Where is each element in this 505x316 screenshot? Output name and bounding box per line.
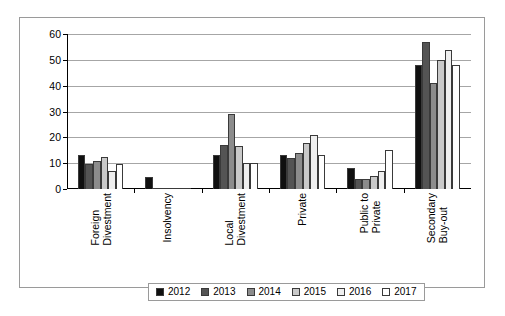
category-labels: ForeignDivestmentInsolvencyLocalDivestme…: [67, 189, 471, 269]
chart-legend: 201220132014201520162017: [148, 283, 425, 301]
bar: [287, 158, 295, 189]
category-label-line2: Divestment: [101, 193, 113, 246]
bar: [85, 164, 93, 189]
bar-group: [67, 34, 134, 189]
bar: [280, 155, 288, 189]
legend-item[interactable]: 2013: [201, 287, 235, 297]
category-label-slot: LocalDivestment: [202, 189, 269, 269]
legend-label: 2016: [349, 287, 371, 297]
category-label-line1: Private: [296, 193, 308, 226]
y-tick-label: 20: [49, 132, 61, 143]
legend-item[interactable]: 2012: [156, 287, 190, 297]
bar: [213, 155, 221, 189]
category-label: Insolvency: [162, 193, 174, 243]
category-label: Public toPrivate: [358, 193, 381, 233]
category-label-slot: Public toPrivate: [336, 189, 403, 269]
bar: [220, 145, 228, 189]
bar: [295, 153, 303, 189]
bar: [355, 179, 363, 189]
bar: [445, 50, 453, 190]
bar: [243, 163, 251, 189]
bar: [116, 164, 124, 189]
bar: [370, 176, 378, 189]
y-tick-label: 60: [49, 29, 61, 40]
bar: [250, 163, 258, 189]
category-label-line1: Local: [223, 220, 235, 245]
legend-label: 2014: [259, 287, 281, 297]
legend-item[interactable]: 2016: [337, 287, 371, 297]
bar: [415, 65, 423, 189]
bar: [422, 42, 430, 189]
category-label-line2: Private: [370, 193, 382, 233]
bar: [228, 114, 236, 189]
legend-label: 2012: [168, 287, 190, 297]
legend-label: 2013: [213, 287, 235, 297]
bar: [101, 157, 109, 189]
bar-group: [134, 34, 201, 189]
bar: [362, 179, 370, 189]
bar-group: [202, 34, 269, 189]
bar: [430, 83, 438, 189]
chart-screenshot: 0102030405060 ForeignDivestmentInsolvenc…: [0, 0, 505, 316]
y-tick-label: 40: [49, 80, 61, 91]
category-label-slot: Private: [269, 189, 336, 269]
category-label-slot: Insolvency: [134, 189, 201, 269]
category-label: ForeignDivestment: [89, 193, 112, 246]
bar-groups: [67, 34, 471, 189]
category-label: SecondaryBuy-out: [426, 193, 449, 243]
category-label: LocalDivestment: [224, 193, 247, 246]
category-label-line1: Secondary: [425, 193, 437, 243]
bar: [318, 155, 326, 189]
legend-item[interactable]: 2017: [382, 287, 416, 297]
category-label: Private: [297, 193, 309, 226]
y-tick-label: 10: [49, 158, 61, 169]
category-label-line1: Insolvency: [161, 193, 173, 243]
y-tick-label: 50: [49, 55, 61, 66]
category-label-line2: Buy-out: [437, 193, 449, 243]
chart-frame: 0102030405060 ForeignDivestmentInsolvenc…: [19, 17, 485, 288]
category-label-line2: Divestment: [235, 193, 247, 246]
bar: [378, 171, 386, 189]
bar: [452, 65, 460, 189]
bar: [437, 60, 445, 189]
legend-swatch-icon: [337, 288, 345, 296]
category-label-line1: Public to: [357, 193, 369, 233]
legend-swatch-icon: [247, 288, 255, 296]
bar: [347, 168, 355, 189]
legend-swatch-icon: [156, 288, 164, 296]
bar-group: [269, 34, 336, 189]
bar: [385, 150, 393, 189]
bar: [145, 177, 153, 189]
plot-area: 0102030405060: [67, 34, 471, 189]
legend-label: 2015: [304, 287, 326, 297]
legend-label: 2017: [394, 287, 416, 297]
legend-item[interactable]: 2014: [247, 287, 281, 297]
y-tick-label: 30: [49, 106, 61, 117]
bar: [93, 161, 101, 189]
legend-item[interactable]: 2015: [292, 287, 326, 297]
legend-swatch-icon: [292, 288, 300, 296]
bar: [78, 155, 86, 189]
category-label-slot: ForeignDivestment: [67, 189, 134, 269]
bar-group: [404, 34, 471, 189]
bar: [235, 146, 243, 189]
category-label-line1: Foreign: [88, 210, 100, 246]
legend-swatch-icon: [201, 288, 209, 296]
legend-swatch-icon: [382, 288, 390, 296]
y-tick-label: 0: [55, 184, 61, 195]
bar: [108, 171, 116, 189]
bar: [303, 143, 311, 190]
bar-group: [336, 34, 403, 189]
bar: [310, 135, 318, 189]
category-label-slot: SecondaryBuy-out: [404, 189, 471, 269]
